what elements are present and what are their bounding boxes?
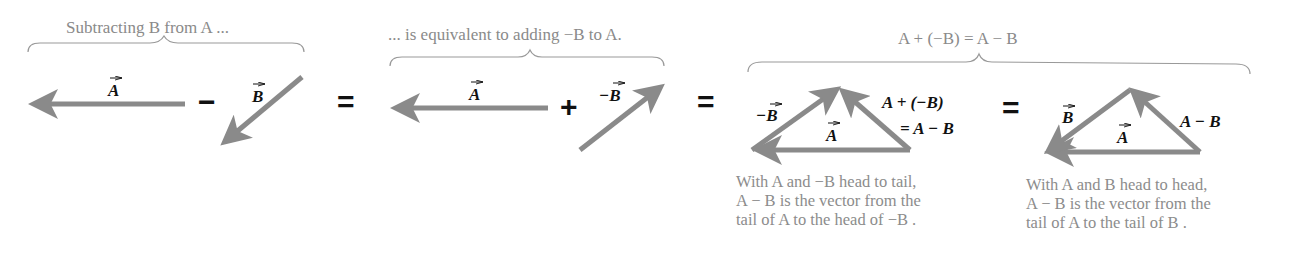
desc-line: A − B is the vector from the [736, 191, 921, 210]
plus-operator: + [560, 90, 578, 123]
desc-line: tail of A to the head of −B . [736, 210, 921, 229]
label-A-3: A [825, 126, 837, 145]
label-B-1: B [251, 87, 263, 106]
brace-subtract [28, 36, 304, 52]
label-sum-line2: = A − B [900, 119, 954, 138]
desc-line: With A and −B head to tail, [736, 172, 921, 191]
desc-line: With A and B head to head, [1026, 175, 1211, 194]
label-negB-2: −B [599, 86, 621, 105]
minus-operator: − [198, 85, 216, 118]
desc-line: tail of A to the tail of B . [1026, 213, 1211, 232]
label-diff-4: A − B [1179, 112, 1221, 131]
svg-text:Subtracting B from A ...: Subtracting B from A ... [66, 18, 229, 37]
label-A-4: A [1116, 128, 1128, 147]
label-A-2: A [468, 85, 480, 104]
equals-operator-1: = [337, 85, 355, 118]
desc-line: A − B is the vector from the [1026, 194, 1211, 213]
label-A-1: A [107, 81, 119, 100]
caption-subtract: Subtracting B from A ... [28, 18, 304, 52]
svg-text:A + (−B) = A − B: A + (−B) = A − B [898, 29, 1018, 48]
svg-text:... is equivalent to adding −B: ... is equivalent to adding −B to A. [388, 25, 622, 44]
equals-operator-2: = [697, 85, 715, 118]
caption-equivalent: ... is equivalent to adding −B to A. [388, 25, 664, 66]
label-B-4: B [1061, 108, 1073, 127]
brace-equivalent [390, 50, 664, 66]
description-head-to-head: With A and B head to head, A − B is the … [1026, 175, 1211, 232]
equals-operator-3: = [1002, 91, 1020, 124]
label-sum-line1: A + (−B) [881, 93, 944, 112]
description-head-to-tail: With A and −B head to tail, A − B is the… [736, 172, 921, 229]
label-negB-3: −B [756, 106, 778, 125]
vector-B-1 [228, 77, 302, 139]
brace-identity [748, 54, 1250, 74]
caption-identity: A + (−B) = A − B [748, 29, 1250, 74]
